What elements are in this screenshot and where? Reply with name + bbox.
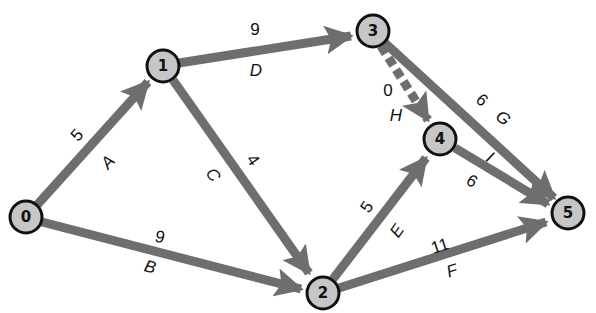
duration-B: 9: [153, 227, 167, 248]
duration-H: 0: [383, 81, 392, 100]
edge-A: [37, 82, 148, 205]
node-2-label: 2: [318, 284, 328, 302]
duration-C: 4: [243, 151, 264, 170]
node-5: 5: [552, 197, 584, 229]
node-0-label: 0: [21, 208, 31, 226]
duration-D: 9: [250, 20, 259, 39]
node-5-label: 5: [563, 204, 573, 222]
activity-H: H: [390, 106, 403, 125]
edge-D: [179, 36, 351, 63]
edge-B: [42, 222, 301, 289]
duration-E: 5: [357, 198, 378, 217]
node-1-label: 1: [158, 57, 168, 75]
node-4: 4: [424, 123, 456, 155]
edge-C: [173, 80, 309, 273]
activity-G: G: [492, 107, 515, 130]
activity-A: A: [96, 151, 118, 173]
activity-B: B: [142, 256, 158, 277]
node-3: 3: [357, 15, 389, 47]
node-2: 2: [307, 277, 339, 309]
activity-E: E: [386, 220, 408, 241]
duration-I: 6: [463, 170, 481, 191]
node-1: 1: [147, 50, 179, 82]
node-4-label: 4: [435, 130, 445, 148]
activity-F: F: [444, 260, 461, 282]
activity-C: C: [202, 165, 225, 187]
duration-A: 5: [67, 125, 87, 145]
node-3-label: 3: [368, 22, 378, 40]
node-0: 0: [10, 201, 42, 233]
duration-G: 6: [472, 90, 492, 110]
network-diagram: 5 A 9 B 4 C 9 D 5 E 11 F 6 G 0 H I 6 0 1…: [0, 0, 596, 313]
activity-D: D: [250, 61, 262, 80]
activity-I: I: [483, 148, 497, 167]
